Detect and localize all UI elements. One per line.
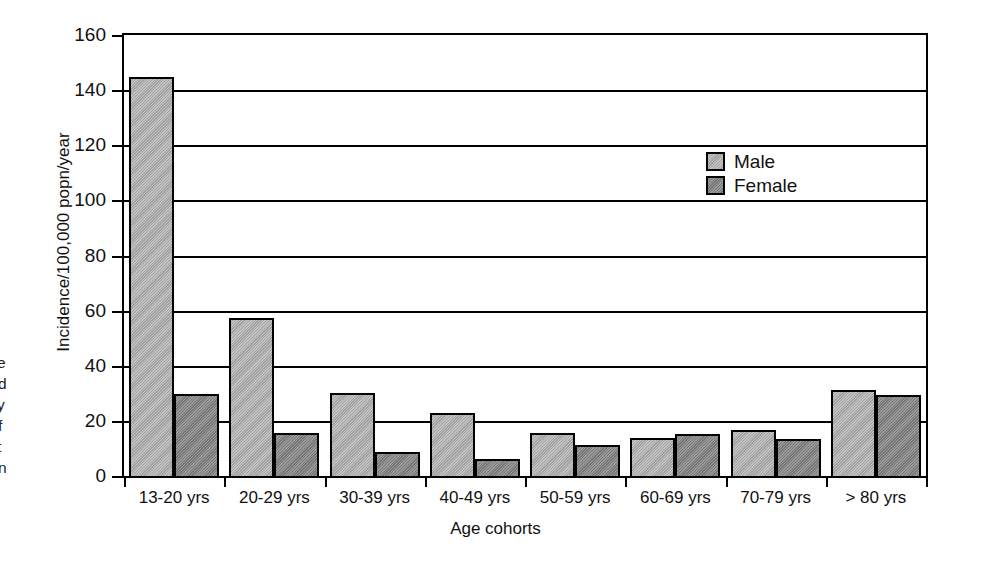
x-axis-tick — [224, 478, 226, 487]
y-axis-tick — [112, 476, 123, 478]
y-axis-tick-label: 80 — [40, 246, 106, 265]
x-axis-tick — [926, 478, 928, 487]
bar-male — [330, 393, 375, 478]
y-axis-tick — [112, 145, 123, 147]
x-axis-tick — [826, 478, 828, 487]
bar-group — [826, 35, 926, 478]
female-swatch-icon — [706, 176, 725, 195]
bar-male — [831, 390, 876, 478]
bar-female — [274, 433, 319, 478]
bar-group — [625, 35, 725, 478]
male-swatch-icon — [706, 152, 725, 171]
x-axis-tick — [325, 478, 327, 487]
bar-male — [129, 77, 174, 478]
bar-male — [430, 413, 475, 478]
y-axis-tick — [112, 200, 123, 202]
bar-male — [530, 433, 575, 478]
caption-fragment-line: t — [0, 436, 22, 457]
x-axis-tick-label: 13-20 yrs — [124, 488, 224, 508]
bars-layer — [124, 35, 926, 478]
bar-group — [726, 35, 826, 478]
y-axis-tick-label: 40 — [40, 356, 106, 375]
y-axis-tick-label: 160 — [40, 25, 106, 44]
bar-male — [630, 438, 675, 478]
chart-legend: Male Female — [706, 152, 797, 195]
y-axis-tick — [112, 366, 123, 368]
caption-fragment-line: n — [0, 457, 22, 478]
bar-female — [375, 452, 420, 478]
legend-label: Female — [734, 176, 797, 195]
x-axis-tick-label: > 80 yrs — [826, 488, 926, 508]
caption-fragment-line: y — [0, 394, 22, 415]
y-axis-tick — [112, 90, 123, 92]
bar-group — [124, 35, 224, 478]
x-axis-tick — [124, 478, 126, 487]
bar-female — [876, 395, 921, 478]
x-axis-tick-label: 20-29 yrs — [224, 488, 324, 508]
caption-fragment-line: d — [0, 373, 22, 394]
y-axis-tick-label: 0 — [40, 466, 106, 485]
bar-female — [475, 459, 520, 478]
y-axis-tick-label: 120 — [40, 135, 106, 154]
y-axis-tick-label: 140 — [40, 80, 106, 99]
x-axis-tick-label: 30-39 yrs — [325, 488, 425, 508]
y-axis-tick — [112, 35, 123, 37]
x-axis-tick-label: 60-69 yrs — [625, 488, 725, 508]
bar-female — [675, 434, 720, 478]
y-axis-tick — [112, 311, 123, 313]
x-axis-tick — [525, 478, 527, 487]
x-axis-tick-label: 50-59 yrs — [525, 488, 625, 508]
y-axis-title: Incidence/100,000 popn/year — [54, 82, 74, 402]
bar-group — [224, 35, 324, 478]
bar-group — [425, 35, 525, 478]
cut-off-caption-fragment: e d y f t n — [0, 352, 22, 478]
y-axis-tick-label: 20 — [40, 411, 106, 430]
bar-female — [776, 439, 821, 478]
x-axis-tick-label: 40-49 yrs — [425, 488, 525, 508]
x-axis-tick — [425, 478, 427, 487]
y-axis-tick — [112, 421, 123, 423]
bar-male — [731, 430, 776, 478]
bar-female — [174, 394, 219, 478]
y-axis-tick-label: 100 — [40, 190, 106, 209]
caption-fragment-line: f — [0, 415, 22, 436]
x-axis-tick-label: 70-79 yrs — [726, 488, 826, 508]
bar-male — [229, 318, 274, 478]
caption-fragment-line: e — [0, 352, 22, 373]
y-axis-tick-label: 60 — [40, 301, 106, 320]
y-axis-tick — [112, 256, 123, 258]
bar-female — [575, 445, 620, 478]
x-axis-tick — [625, 478, 627, 487]
x-axis-tick — [726, 478, 728, 487]
bar-group — [325, 35, 425, 478]
legend-item-male: Male — [706, 152, 797, 171]
legend-item-female: Female — [706, 176, 797, 195]
bar-group — [525, 35, 625, 478]
x-axis-title: Age cohorts — [0, 519, 991, 539]
legend-label: Male — [734, 152, 775, 171]
